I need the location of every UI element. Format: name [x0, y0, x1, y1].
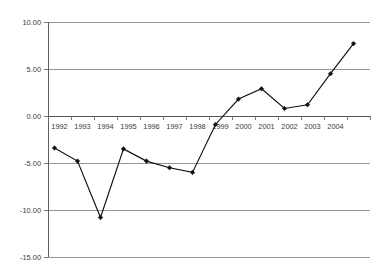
data-point-marker: [121, 147, 126, 152]
data-point-marker: [52, 146, 57, 151]
series-line: [55, 44, 354, 218]
x-axis-tick-label: 2001: [258, 122, 274, 131]
x-axis-tick-label: 1994: [97, 122, 113, 131]
x-axis-tick-label: 2000: [235, 122, 251, 131]
y-axis-tick-label: 0.00: [27, 112, 41, 121]
data-point-marker: [167, 165, 172, 170]
data-point-marker: [190, 170, 195, 175]
x-axis-tick-label: 1993: [74, 122, 90, 131]
x-axis-tick-label: 2002: [281, 122, 297, 131]
chart-container: 10.005.000.00-5.00-10.00-15.001992199319…: [0, 0, 387, 277]
x-axis-tick-label: 1992: [51, 122, 67, 131]
line-chart: 10.005.000.00-5.00-10.00-15.001992199319…: [0, 0, 387, 277]
x-axis-tick-label: 2004: [327, 122, 343, 131]
x-axis-tick-label: 2003: [304, 122, 320, 131]
y-axis-tick-label: -15.00: [20, 253, 41, 262]
data-point-marker: [98, 215, 103, 220]
x-axis-tick-label: 1996: [143, 122, 159, 131]
x-axis-tick-label: 1998: [189, 122, 205, 131]
y-axis-tick-label: -5.00: [24, 159, 41, 168]
x-axis-tick-label: 1995: [120, 122, 136, 131]
y-axis-tick-label: 10.00: [23, 18, 42, 27]
y-axis-tick-label: 5.00: [27, 65, 41, 74]
x-axis-tick-label: 1997: [166, 122, 182, 131]
y-axis-tick-label: -10.00: [20, 206, 41, 215]
